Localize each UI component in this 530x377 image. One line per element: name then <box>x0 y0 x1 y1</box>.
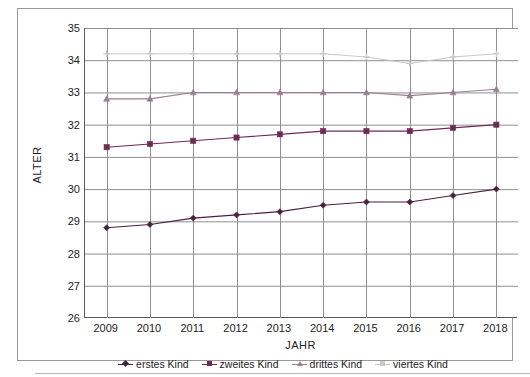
x-axis-tick-label: 2016 <box>386 322 432 334</box>
data-point <box>320 202 326 208</box>
triangle-marker-icon <box>292 360 307 369</box>
series-line <box>107 54 497 64</box>
legend-item-1[interactable]: erstes Kind <box>118 358 189 370</box>
data-point <box>493 186 499 192</box>
legend-separator <box>35 373 530 374</box>
series-4 <box>103 51 499 67</box>
data-point <box>494 122 499 127</box>
legend-item-3[interactable]: drittes Kind <box>292 358 363 370</box>
series-line <box>107 125 497 148</box>
gridlines <box>85 28 518 318</box>
data-point <box>493 86 499 92</box>
data-point <box>234 212 240 218</box>
x-axis-tick-labels: 2009201020112012201320142015201620172018 <box>84 322 517 338</box>
data-point <box>190 51 196 57</box>
y-axis-tick-label: 35 <box>46 23 80 33</box>
series-line <box>107 89 497 99</box>
y-axis-tick-label: 34 <box>46 55 80 65</box>
x-axis-tick-label: 2011 <box>169 322 215 334</box>
data-point <box>364 129 369 134</box>
x-axis-tick-label: 2012 <box>213 322 259 334</box>
x-axis-tick-label: 2014 <box>299 322 345 334</box>
diamond-marker-icon <box>118 360 133 369</box>
x-axis-tick-label: 2013 <box>256 322 302 334</box>
legend-item-label: drittes Kind <box>310 358 363 370</box>
y-axis-tick-label: 26 <box>46 313 80 323</box>
data-point <box>363 54 369 60</box>
y-axis-tick-label: 28 <box>46 249 80 259</box>
data-point <box>277 132 282 137</box>
series-1 <box>104 186 500 231</box>
data-point <box>147 141 152 146</box>
y-axis-tick-label: 31 <box>46 152 80 162</box>
y-axis-tick-labels: 26272829303132333435 <box>42 28 80 318</box>
data-point <box>450 193 456 199</box>
data-point <box>233 51 239 57</box>
plot-area <box>84 28 517 318</box>
x-axis-tick-label: 2017 <box>429 322 475 334</box>
data-point <box>320 51 326 57</box>
data-point <box>104 225 110 231</box>
y-axis-tick-label: 27 <box>46 281 80 291</box>
data-point <box>321 129 326 134</box>
x-axis-tick-label: 2018 <box>472 322 518 334</box>
y-axis-tick-label: 30 <box>46 184 80 194</box>
data-point <box>407 199 413 205</box>
data-point <box>277 51 283 57</box>
data-point <box>104 145 109 150</box>
data-point <box>363 199 369 205</box>
x-axis-tick-label: 2010 <box>126 322 172 334</box>
data-point <box>147 222 153 228</box>
series-3 <box>104 86 500 101</box>
x-axis-title: JAHR <box>84 339 517 351</box>
data-point <box>407 129 412 134</box>
chart-legend: erstes Kindzweites Kinddrittes Kindviert… <box>35 356 530 372</box>
legend-item-label: erstes Kind <box>136 358 189 370</box>
data-point <box>450 125 455 130</box>
data-point <box>191 138 196 143</box>
data-point <box>234 135 239 140</box>
legend-item-2[interactable]: zweites Kind <box>202 358 279 370</box>
x-axis-tick-label: 2015 <box>342 322 388 334</box>
chart-frame: ALTER 26272829303132333435 2009201020112… <box>17 8 513 361</box>
data-point <box>190 215 196 221</box>
legend-item-4[interactable]: viertes Kind <box>375 358 448 370</box>
plot-svg <box>85 28 518 318</box>
data-point <box>450 54 456 60</box>
legend-item-label: zweites Kind <box>220 358 279 370</box>
chart-screenshot: ALTER 26272829303132333435 2009201020112… <box>0 0 530 377</box>
y-axis-tick-label: 32 <box>46 120 80 130</box>
x-axis-tick-label: 2009 <box>83 322 129 334</box>
cross-marker-icon <box>375 360 390 369</box>
y-axis-tick-label: 29 <box>46 216 80 226</box>
square-marker-icon <box>202 360 217 369</box>
y-axis-tick-label: 33 <box>46 87 80 97</box>
legend-item-label: viertes Kind <box>393 358 448 370</box>
data-point <box>277 209 283 215</box>
series-2 <box>104 122 499 150</box>
data-point <box>147 51 153 57</box>
data-point <box>103 51 109 57</box>
data-point <box>493 51 499 57</box>
